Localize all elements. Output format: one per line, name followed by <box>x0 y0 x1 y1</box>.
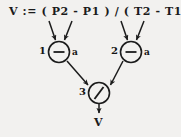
node-1-number: 1 <box>39 45 46 56</box>
edge-node1-to-node3 <box>67 61 88 85</box>
edge-p2-to-node1 <box>49 21 56 40</box>
dataflow-graph <box>0 0 181 137</box>
diagram-canvas: V := ( P2 - P1 ) / ( T2 - T1 ); 1 <box>0 0 181 137</box>
edge-t1-to-node2 <box>137 21 145 40</box>
edge-p1-to-node1 <box>65 21 73 40</box>
node-1-tag: a <box>72 47 78 57</box>
node-2-tag: a <box>144 47 150 57</box>
output-label: V <box>94 116 103 129</box>
edge-node2-to-node3 <box>111 61 124 85</box>
node-3-number: 3 <box>79 86 86 97</box>
edge-t2-to-node2 <box>121 21 128 40</box>
node-2-number: 2 <box>111 45 118 56</box>
